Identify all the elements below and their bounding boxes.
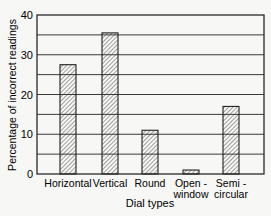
bar-vertical bbox=[102, 33, 118, 174]
x-axis-title: Dial types bbox=[126, 197, 175, 209]
x-tick-label: window bbox=[172, 188, 208, 200]
y-tick-label: 10 bbox=[21, 128, 33, 140]
y-tick-label: 30 bbox=[21, 49, 33, 61]
x-tick-label: Vertical bbox=[93, 177, 127, 189]
y-tick-label: 40 bbox=[21, 9, 33, 21]
x-tick-label: Round bbox=[135, 177, 166, 189]
bar-semi-circular bbox=[223, 106, 239, 174]
bar-horizontal bbox=[60, 65, 76, 174]
bar-chart: 010203040 HorizontalVerticalRoundOpen -w… bbox=[0, 0, 271, 216]
bar-round bbox=[142, 130, 158, 174]
y-tick-label: 0 bbox=[27, 168, 33, 180]
y-axis-ticks: 010203040 bbox=[21, 9, 33, 180]
y-tick-label: 20 bbox=[21, 89, 33, 101]
x-tick-label: Horizontal bbox=[44, 177, 91, 189]
x-tick-label: circular bbox=[214, 188, 248, 200]
y-axis-title: Percentage of incorrect readings bbox=[6, 19, 18, 171]
bars bbox=[60, 33, 239, 174]
